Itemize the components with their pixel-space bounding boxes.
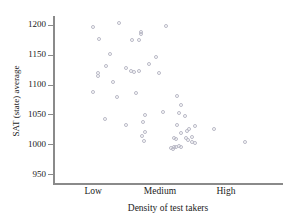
data-point bbox=[132, 70, 136, 74]
data-point bbox=[137, 69, 141, 73]
data-point bbox=[104, 64, 108, 68]
y-axis-tick-labels: 95010001050110011501200 bbox=[0, 0, 46, 223]
data-point bbox=[157, 71, 161, 75]
data-point bbox=[179, 131, 183, 135]
data-point bbox=[111, 80, 115, 84]
data-point bbox=[193, 141, 197, 145]
data-point bbox=[97, 37, 101, 41]
plot-area bbox=[53, 16, 283, 183]
y-axis-tick-label: 1150 bbox=[28, 50, 46, 59]
x-axis-tick-label: Low bbox=[85, 186, 102, 196]
y-axis-tick-label: 1100 bbox=[28, 80, 46, 89]
data-point bbox=[193, 124, 197, 128]
x-axis-title: Density of test takers bbox=[53, 203, 283, 213]
data-point bbox=[117, 21, 121, 25]
data-point bbox=[142, 139, 146, 143]
data-point bbox=[177, 111, 181, 115]
data-point bbox=[161, 110, 165, 114]
data-point bbox=[91, 25, 95, 29]
data-point bbox=[154, 55, 158, 59]
x-axis-tick-label: High bbox=[216, 186, 235, 196]
data-point bbox=[175, 94, 179, 98]
data-point bbox=[141, 120, 145, 124]
data-point bbox=[175, 123, 179, 127]
y-axis-title: SAT (state) average bbox=[11, 41, 21, 161]
data-point bbox=[143, 130, 147, 134]
y-axis-tick-label: 1200 bbox=[28, 20, 46, 29]
data-point bbox=[130, 38, 134, 42]
data-point bbox=[143, 113, 147, 117]
data-point bbox=[108, 52, 112, 56]
data-point bbox=[139, 32, 143, 36]
data-point bbox=[137, 38, 141, 42]
data-point bbox=[147, 62, 151, 66]
y-axis-tick-label: 1000 bbox=[28, 140, 46, 149]
y-axis-tick-label: 950 bbox=[33, 170, 47, 179]
x-axis-tick-label: Medium bbox=[144, 186, 176, 196]
data-point bbox=[91, 90, 95, 94]
data-point bbox=[124, 66, 128, 70]
scatter-chart-figure: 95010001050110011501200 LowMediumHigh SA… bbox=[0, 0, 287, 223]
data-point bbox=[179, 145, 183, 149]
data-point bbox=[96, 74, 100, 78]
data-point bbox=[134, 91, 138, 95]
data-point bbox=[212, 127, 216, 131]
data-point bbox=[243, 140, 247, 144]
x-axis-line bbox=[53, 183, 283, 185]
data-point bbox=[185, 129, 189, 133]
data-point bbox=[190, 135, 194, 139]
data-point bbox=[103, 117, 107, 121]
data-point bbox=[115, 95, 119, 99]
y-axis-tick-label: 1050 bbox=[28, 110, 46, 119]
data-point bbox=[183, 114, 187, 118]
data-point bbox=[179, 103, 183, 107]
data-point bbox=[164, 24, 168, 28]
data-point bbox=[124, 123, 128, 127]
data-point bbox=[140, 134, 144, 138]
